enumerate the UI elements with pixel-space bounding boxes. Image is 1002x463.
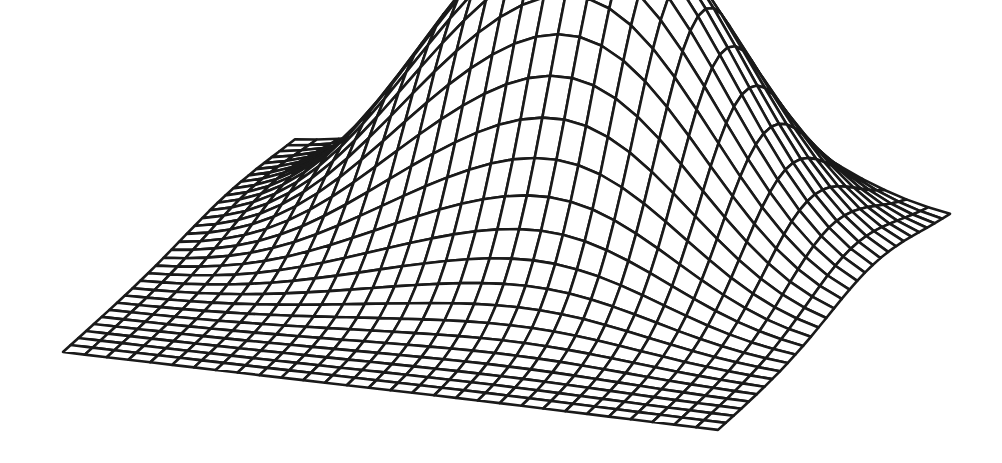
wireframe-surface: [0, 0, 1002, 463]
surface-plot: [0, 0, 1002, 463]
mesh-cell: [696, 420, 726, 430]
surface-mesh: [63, 0, 950, 430]
